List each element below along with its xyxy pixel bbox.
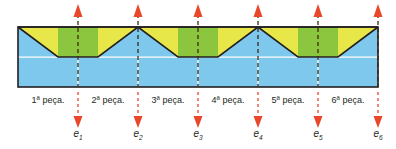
piece-label-1: 1ª peça. bbox=[32, 95, 65, 105]
cut-marker-label-e2: e2 bbox=[133, 128, 142, 141]
cut-marker-sub-e5: 5 bbox=[319, 134, 323, 141]
cut-marker-sub-e4: 4 bbox=[259, 134, 263, 141]
arrow-up-e5 bbox=[314, 4, 323, 17]
arrow-up-e2 bbox=[134, 4, 143, 17]
cut-marker-label-e1: e1 bbox=[73, 128, 82, 141]
arrow-down-e2 bbox=[134, 116, 143, 128]
cut-marker-label-e3: e3 bbox=[193, 128, 202, 141]
arrow-down-e3 bbox=[194, 116, 203, 128]
piece-label-2: 2ª peça. bbox=[92, 95, 125, 105]
arrow-down-e6 bbox=[374, 116, 383, 128]
cut-marker-sub-e3: 3 bbox=[199, 134, 203, 141]
cut-marker-label-e6: e6 bbox=[373, 128, 382, 141]
arrow-down-e1 bbox=[74, 116, 83, 128]
cut-marker-sub-e6: 6 bbox=[379, 134, 383, 141]
piece-label-5: 5ª peça. bbox=[272, 95, 305, 105]
arrow-up-e6 bbox=[374, 4, 383, 17]
piece-label-6: 6ª peça. bbox=[332, 95, 365, 105]
arrow-down-e4 bbox=[254, 116, 263, 128]
arrow-up-e3 bbox=[194, 4, 203, 17]
pieces-diagram-svg bbox=[0, 0, 396, 149]
arrow-up-e1 bbox=[74, 4, 83, 17]
diagram-stage: 1ª peça. 2ª peça. 3ª peça. 4ª peça. 5ª p… bbox=[0, 0, 396, 149]
arrow-down-e5 bbox=[314, 116, 323, 128]
cut-marker-sub-e1: 1 bbox=[79, 134, 83, 141]
cut-marker-label-e4: e4 bbox=[253, 128, 262, 141]
piece-label-3: 3ª peça. bbox=[152, 95, 185, 105]
piece-label-4: 4ª peça. bbox=[212, 95, 245, 105]
cut-marker-sub-e2: 2 bbox=[139, 134, 143, 141]
cut-marker-label-e5: e5 bbox=[313, 128, 322, 141]
arrow-up-e4 bbox=[254, 4, 263, 17]
